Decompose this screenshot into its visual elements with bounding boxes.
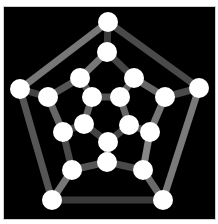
graph-edge — [20, 22, 108, 89]
graph-node — [97, 42, 117, 62]
graph-node — [42, 190, 62, 210]
graph-node — [82, 87, 102, 107]
graph-node — [53, 122, 73, 142]
graph-node — [97, 152, 117, 172]
graph-node — [133, 160, 153, 180]
graph-node — [38, 87, 58, 107]
graph-node — [62, 160, 82, 180]
graph-node — [110, 87, 130, 107]
graph-node — [10, 79, 30, 99]
graph-node — [124, 68, 144, 88]
graph-node — [155, 87, 175, 107]
graph-node — [189, 78, 209, 98]
graph-node — [98, 12, 118, 32]
dodecahedral-graph — [0, 0, 218, 224]
graph-node — [119, 115, 139, 135]
graph-edge — [108, 22, 199, 88]
graph-node — [98, 132, 118, 152]
graph-node — [74, 114, 94, 134]
graph-node — [140, 122, 160, 142]
graph-node — [70, 68, 90, 88]
graph-node — [153, 190, 173, 210]
